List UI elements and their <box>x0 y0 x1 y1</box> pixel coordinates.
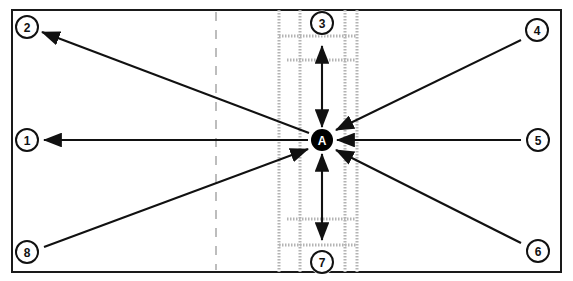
node-4-label: 4 <box>534 24 541 38</box>
diagram-canvas: 12345678 A <box>0 0 573 281</box>
node-8[interactable]: 8 <box>14 239 39 264</box>
node-5-label: 5 <box>535 134 542 148</box>
node-6[interactable]: 6 <box>525 238 550 263</box>
node-2-label: 2 <box>24 21 31 35</box>
node-7-label: 7 <box>319 256 326 270</box>
node-2[interactable]: 2 <box>14 14 39 39</box>
node-4[interactable]: 4 <box>524 17 549 42</box>
hub-label: A <box>318 134 327 148</box>
node-5[interactable]: 5 <box>525 127 550 152</box>
node-6-label: 6 <box>535 245 542 259</box>
node-1-label: 1 <box>24 134 31 148</box>
hub-node-a[interactable]: A <box>311 129 333 151</box>
diagram-svg: 12345678 A <box>0 0 573 281</box>
node-3-label: 3 <box>319 17 326 31</box>
node-7[interactable]: 7 <box>309 249 334 274</box>
node-8-label: 8 <box>24 246 31 260</box>
node-3[interactable]: 3 <box>309 10 334 35</box>
node-1[interactable]: 1 <box>14 127 39 152</box>
